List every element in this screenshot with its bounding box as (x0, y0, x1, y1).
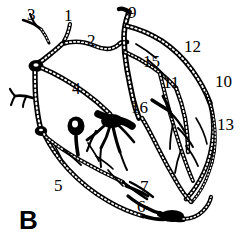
label-10: 10 (215, 73, 232, 90)
label-15: 15 (143, 53, 160, 70)
label-6: 6 (137, 198, 146, 215)
label-1: 1 (64, 7, 73, 24)
label-3: 3 (27, 6, 36, 23)
panel-letter: B (19, 207, 38, 233)
label-16: 16 (131, 99, 148, 116)
figure-panel-b: 3 1 9 2 12 15 11 10 4 16 13 5 7 6 B (0, 0, 242, 245)
label-7: 7 (140, 178, 149, 195)
label-2: 2 (87, 32, 96, 49)
label-4: 4 (72, 80, 81, 97)
label-13: 13 (217, 116, 234, 133)
label-11: 11 (163, 74, 179, 91)
label-12: 12 (184, 38, 201, 55)
label-5: 5 (54, 177, 63, 194)
label-9: 9 (128, 4, 137, 21)
